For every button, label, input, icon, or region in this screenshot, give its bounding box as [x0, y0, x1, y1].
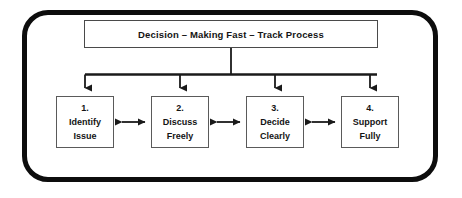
- step-label-3-line2: Clearly: [260, 130, 290, 142]
- step-label-1-line1: Identify: [69, 116, 101, 128]
- process-title-label: Decision – Making Fast – Track Process: [138, 29, 324, 40]
- process-title-box: Decision – Making Fast – Track Process: [84, 20, 378, 48]
- process-step-box-1: 1. Identify Issue: [56, 96, 114, 148]
- step-label-2-line1: Discuss: [163, 116, 198, 128]
- step-number-2: 2.: [176, 102, 184, 114]
- diagram-canvas: Decision – Making Fast – Track Process 1…: [0, 0, 462, 198]
- process-step-box-2: 2. Discuss Freely: [151, 96, 209, 148]
- step-number-1: 1.: [81, 102, 89, 114]
- step-number-3: 3.: [271, 102, 279, 114]
- process-step-box-4: 4. Support Fully: [341, 96, 399, 148]
- step-label-4-line2: Fully: [359, 130, 380, 142]
- step-label-3-line1: Decide: [260, 116, 290, 128]
- step-number-4: 4.: [366, 102, 374, 114]
- step-label-2-line2: Freely: [167, 130, 194, 142]
- process-step-box-3: 3. Decide Clearly: [246, 96, 304, 148]
- step-label-1-line2: Issue: [73, 130, 96, 142]
- step-label-4-line1: Support: [353, 116, 388, 128]
